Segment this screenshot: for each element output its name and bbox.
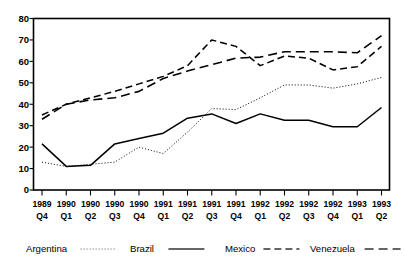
- x-axis-tick-quarter: Q3: [303, 211, 315, 221]
- x-axis-tick-quarter: Q2: [376, 211, 388, 221]
- x-axis-tick-year: 1990: [105, 199, 124, 209]
- x-axis-tick-year: 1993: [372, 199, 391, 209]
- x-axis-tick-year: 1992: [323, 199, 342, 209]
- x-axis-tick-year: 1991: [202, 199, 221, 209]
- x-axis-tick-quarter: Q4: [36, 211, 48, 221]
- y-axis-tick-label: 20: [18, 142, 29, 153]
- y-axis-tick-label: 30: [18, 120, 29, 131]
- y-axis-tick-label: 80: [18, 13, 29, 24]
- legend-label-brazil: Brazil: [130, 243, 154, 254]
- x-axis-tick-quarter: Q1: [255, 211, 267, 221]
- x-axis-tick-quarter: Q4: [230, 211, 242, 221]
- chart-container: 01020304050607080 1989Q41990Q11990Q21990…: [0, 0, 404, 262]
- y-axis-tick-label: 50: [18, 77, 29, 88]
- x-axis-tick-quarter: Q4: [327, 211, 339, 221]
- chart-background: [0, 0, 404, 262]
- x-axis-tick-year: 1991: [154, 199, 173, 209]
- x-axis-tick-quarter: Q1: [61, 211, 73, 221]
- x-axis-tick-year: 1990: [129, 199, 148, 209]
- y-axis-tick-labels: 01020304050607080: [18, 13, 29, 196]
- x-axis-tick-quarter: Q2: [279, 211, 291, 221]
- x-axis-tick-quarter: Q2: [182, 211, 194, 221]
- x-axis-tick-year: 1991: [226, 199, 245, 209]
- x-axis-tick-year: 1990: [57, 199, 76, 209]
- line-chart: 01020304050607080 1989Q41990Q11990Q21990…: [0, 0, 404, 262]
- x-axis-tick-year: 1993: [348, 199, 367, 209]
- legend-label-argentina: Argentina: [26, 243, 68, 254]
- x-axis-tick-quarter: Q1: [352, 211, 364, 221]
- y-axis-tick-label: 60: [18, 56, 29, 67]
- x-axis-tick-year: 1989: [32, 199, 51, 209]
- y-axis-tick-label: 0: [24, 184, 29, 195]
- x-axis-tick-year: 1992: [251, 199, 270, 209]
- x-axis-tick-year: 1992: [275, 199, 294, 209]
- x-axis-tick-quarter: Q4: [133, 211, 145, 221]
- x-axis-tick-year: 1992: [299, 199, 318, 209]
- x-axis-tick-quarter: Q2: [85, 211, 97, 221]
- x-axis-tick-quarter: Q3: [109, 211, 121, 221]
- x-axis-tick-year: 1990: [81, 199, 100, 209]
- x-axis-tick-year: 1991: [178, 199, 197, 209]
- y-axis-tick-label: 40: [18, 99, 29, 110]
- legend-label-venezuela: Venezuela: [310, 243, 355, 254]
- legend-label-mexico: Mexico: [225, 243, 255, 254]
- y-axis-tick-label: 10: [18, 163, 29, 174]
- y-axis-tick-label: 70: [18, 34, 29, 45]
- x-axis-tick-quarter: Q3: [206, 211, 218, 221]
- x-axis-tick-quarter: Q1: [158, 211, 170, 221]
